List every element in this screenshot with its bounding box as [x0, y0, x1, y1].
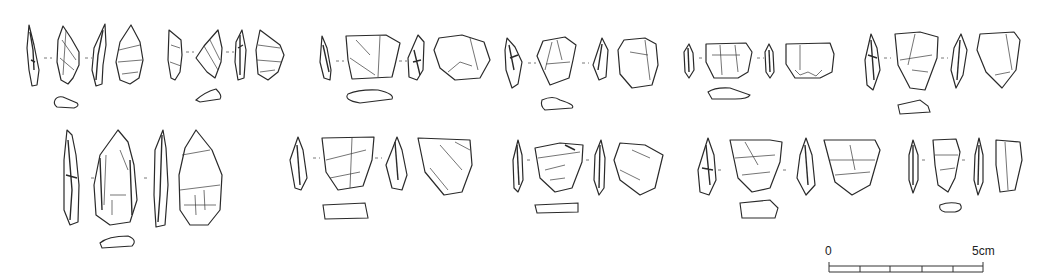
artefact-b2 — [290, 137, 472, 219]
artefact-a3 — [320, 35, 490, 103]
artefact-b3 — [513, 140, 663, 213]
lithic-illustration-plate: .o{fill:#fff;stroke:#2a2a2a;stroke-width… — [0, 0, 1052, 277]
artefact-b4 — [698, 138, 880, 218]
artefact-a6 — [865, 32, 1020, 114]
artefact-b1 — [64, 130, 222, 248]
artefact-b5 — [909, 138, 1022, 212]
scale-bar — [829, 262, 983, 272]
scale-start-label: 0 — [825, 244, 832, 258]
artefact-a1 — [27, 24, 143, 108]
artefact-a2 — [168, 30, 284, 102]
scale-end-label: 5cm — [972, 244, 995, 258]
artefact-a5 — [684, 43, 834, 99]
artefact-a4 — [505, 37, 658, 110]
